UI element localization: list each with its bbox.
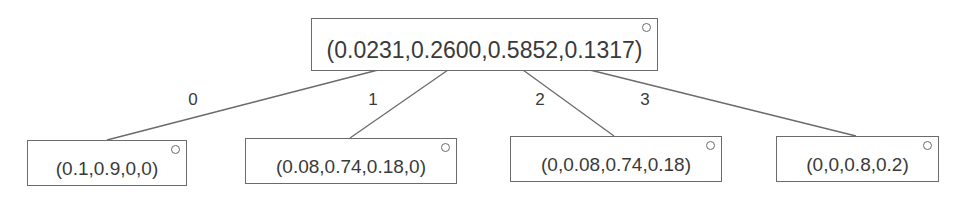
child-node-label: (0.1,0.9,0,0) — [28, 158, 186, 180]
child-node-1: (0.08,0.74,0.18,0) — [245, 138, 457, 184]
edge-3 — [590, 70, 856, 136]
edge-1 — [350, 70, 448, 138]
port-circle-icon — [706, 141, 715, 150]
edge-0 — [107, 70, 378, 140]
port-circle-icon — [171, 145, 180, 154]
port-circle-icon — [642, 23, 651, 32]
edge-label-2: 2 — [535, 90, 544, 110]
port-circle-icon — [441, 143, 450, 152]
child-node-label: (0.08,0.74,0.18,0) — [246, 156, 456, 178]
port-circle-icon — [923, 141, 932, 150]
root-node-label: (0.0231,0.2600,0.5852,0.1317) — [312, 37, 657, 64]
child-node-label: (0,0,0.8,0.2) — [777, 154, 938, 176]
root-node: (0.0231,0.2600,0.5852,0.1317) — [311, 18, 658, 71]
edge-label-3: 3 — [640, 90, 649, 110]
edge-label-0: 0 — [188, 90, 197, 110]
edge-label-1: 1 — [368, 90, 377, 110]
child-node-2: (0,0.08,0.74,0.18) — [510, 136, 722, 182]
child-node-0: (0.1,0.9,0,0) — [27, 140, 187, 186]
child-node-label: (0,0.08,0.74,0.18) — [511, 154, 721, 176]
child-node-3: (0,0,0.8,0.2) — [776, 136, 939, 182]
